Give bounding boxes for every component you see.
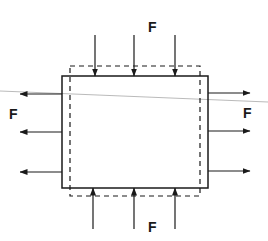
force-label-top: F	[148, 19, 157, 35]
force-label-bottom: F	[148, 219, 157, 235]
bottom-force-arrows	[93, 188, 175, 229]
deformed-outline-dashed	[70, 66, 200, 196]
force-label-left: F	[9, 106, 18, 122]
body-outline-solid	[62, 76, 208, 188]
force-diagram: F F F F	[0, 0, 268, 241]
force-label-right: F	[243, 105, 252, 121]
top-force-arrows	[95, 35, 175, 76]
left-force-arrows	[20, 94, 62, 172]
